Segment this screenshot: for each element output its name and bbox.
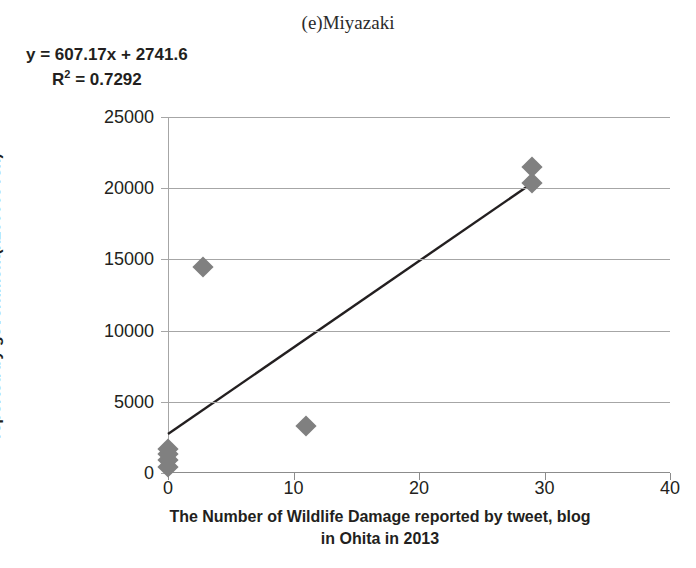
y-tick-label: 0: [144, 463, 154, 484]
gridline-y: [168, 402, 670, 403]
x-axis-title: The Number of Wildlife Damage reported b…: [120, 506, 640, 549]
x-tick-label: 40: [660, 478, 680, 499]
gridline-y: [168, 331, 670, 332]
y-tick-mark: [161, 259, 168, 260]
gridline-y: [168, 188, 670, 189]
y-axis-line: [168, 117, 169, 473]
x-tick-label: 10: [283, 478, 303, 499]
regression-annotation: y = 607.17x + 2741.6 R2 = 0.7292: [26, 44, 188, 92]
regression-equation-text: y = 607.17x + 2741.6: [26, 44, 188, 67]
chart-figure: (e)Miyazaki y = 607.17x + 2741.6 R2 = 0.…: [0, 0, 696, 568]
gridline-y: [168, 259, 670, 260]
y-tick-label: 5000: [114, 391, 154, 412]
y-tick-label: 25000: [104, 107, 154, 128]
y-tick-label: 15000: [104, 249, 154, 270]
y-tick-label: 10000: [104, 320, 154, 341]
data-point-marker: [521, 156, 542, 177]
y-tick-label: 20000: [104, 178, 154, 199]
y-tick-mark: [161, 117, 168, 118]
x-tick-label: 20: [409, 478, 429, 499]
x-tick-label: 30: [534, 478, 554, 499]
chart-title: (e)Miyazaki: [0, 12, 696, 34]
trendline: [168, 117, 670, 473]
x-axis-title-line1: The Number of Wildlife Damage reported b…: [120, 506, 640, 528]
x-tick-label: 0: [163, 478, 173, 499]
data-point-marker: [295, 415, 316, 436]
gridline-y: [168, 117, 670, 118]
y-tick-mark: [161, 331, 168, 332]
r2-prefix: R: [52, 70, 64, 89]
y-axis-tick-labels: 0500010000150002000025000: [0, 117, 160, 473]
x-axis-title-line2: in Ohita in 2013: [120, 528, 640, 550]
y-axis-title-line2: reported by government(x10000JYen): [0, 144, 6, 448]
regression-r2-text: R2 = 0.7292: [26, 67, 188, 92]
x-axis-tick-labels: 010203040: [168, 478, 670, 506]
y-tick-mark: [161, 188, 168, 189]
r2-value: = 0.7292: [70, 70, 141, 89]
y-tick-mark: [161, 402, 168, 403]
plot-area: [168, 117, 670, 473]
y-axis-title: Tue Wildlife Damage of Miyazaki in 2013 …: [0, 118, 15, 474]
